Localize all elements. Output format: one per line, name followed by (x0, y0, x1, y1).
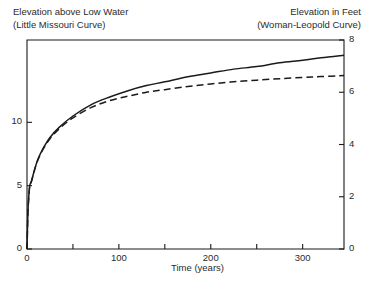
x-axis-title: Time (years) (0, 262, 373, 273)
data-series (27, 55, 344, 249)
series-line-1 (27, 55, 344, 249)
left-tick-label: 5 (0, 179, 22, 190)
chart-container: Elevation above Low Water (Little Missou… (0, 0, 373, 295)
right-tick-label: 2 (349, 190, 354, 201)
plot-area (0, 0, 373, 295)
tick-marks (27, 40, 344, 249)
left-tick-label: 10 (0, 115, 22, 126)
right-tick-label: 6 (349, 85, 354, 96)
right-tick-label: 8 (349, 33, 354, 44)
series-line-2 (27, 76, 344, 249)
right-tick-label: 0 (349, 242, 354, 253)
x-axis-title-label: Time (years) (171, 262, 224, 273)
plot-frame (27, 40, 344, 249)
right-tick-label: 4 (349, 138, 354, 149)
